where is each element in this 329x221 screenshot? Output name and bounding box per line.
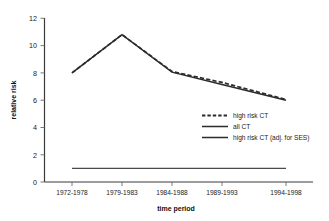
y-tick-label-12: 12 (29, 14, 37, 23)
y-tick-label-0: 0 (33, 178, 37, 187)
x-axis-title: time period (157, 205, 195, 213)
y-tick-label-8: 8 (33, 69, 37, 78)
legend-label-all-ct: all CT (233, 123, 250, 130)
y-axis-title: relative risk (10, 80, 17, 119)
y-tick-label-10: 10 (29, 41, 37, 50)
chart-background (0, 0, 329, 221)
y-tick-label-2: 2 (33, 151, 37, 160)
x-tick-label-5: 1994-1998 (270, 189, 302, 196)
y-tick-label-4: 4 (33, 123, 37, 132)
relative-risk-line-chart: 12 10 8 6 4 2 0 relative risk 1972-1978 … (0, 0, 329, 221)
x-tick-label-4: 1989-1993 (206, 189, 238, 196)
x-tick-label-2: 1979-1983 (106, 189, 138, 196)
x-tick-label-1: 1972-1978 (56, 189, 88, 196)
legend-label-high-risk-ct: high risk CT (233, 112, 268, 120)
x-tick-label-3: 1984-1988 (156, 189, 188, 196)
legend-label-high-risk-ct-adj-ses: high risk CT (adj. for SES) (233, 134, 309, 142)
y-tick-label-6: 6 (33, 96, 37, 105)
